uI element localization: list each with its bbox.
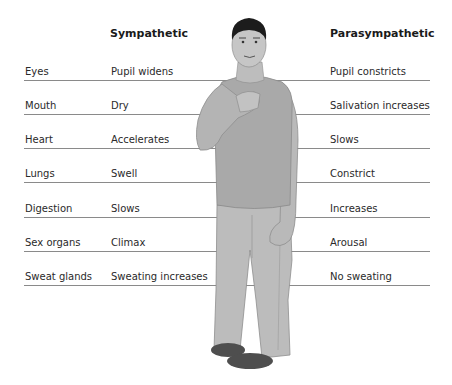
organ-label: Heart [25, 134, 53, 145]
parasympathetic-effect: Arousal [330, 237, 367, 248]
sympathetic-effect: Sweating increases [111, 271, 208, 282]
sympathetic-effect: Dry [111, 100, 129, 111]
parasympathetic-effect: Salivation increases [330, 100, 430, 111]
organ-label: Sex organs [25, 237, 81, 248]
organ-label: Eyes [25, 66, 49, 77]
sympathetic-effect: Pupil widens [111, 66, 173, 77]
parasympathetic-effect: Constrict [330, 168, 375, 179]
sympathetic-effect: Accelerates [111, 134, 169, 145]
organ-label: Sweat glands [25, 271, 92, 282]
parasympathetic-effect: Slows [330, 134, 359, 145]
standing-man-hand-on-chest-icon [0, 0, 452, 385]
parasympathetic-effect: Pupil constricts [330, 66, 406, 77]
sympathetic-effect: Swell [111, 168, 137, 179]
organ-label: Digestion [25, 203, 72, 214]
organ-label: Lungs [25, 168, 55, 179]
parasympathetic-effect: Increases [330, 203, 378, 214]
parasympathetic-effect: No sweating [330, 271, 392, 282]
sympathetic-effect: Slows [111, 203, 140, 214]
sympathetic-effect: Climax [111, 237, 145, 248]
organ-label: Mouth [25, 100, 56, 111]
